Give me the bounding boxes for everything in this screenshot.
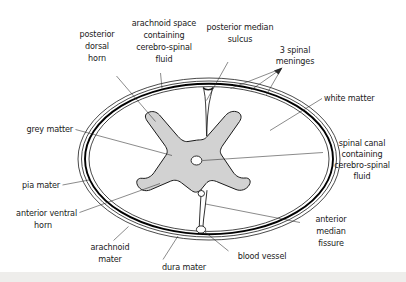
label-blood-vessel: blood vessel xyxy=(238,251,287,261)
label-posterior-dorsal-horn: posterior dorsal horn xyxy=(80,29,116,63)
label-anterior-ventral-horn-line-1: anterior ventral xyxy=(16,208,77,218)
label-dura-mater: dura mater xyxy=(162,262,207,272)
label-anterior-median-fissure-line-1: anterior xyxy=(316,214,348,224)
label-spinal-canal-line-2: containing xyxy=(341,149,382,159)
leader-arachnoid-mater xyxy=(114,227,129,241)
page-edge-band xyxy=(0,272,406,282)
leader-arachnoid-space xyxy=(161,73,163,89)
leader-anterior-median-fissure xyxy=(206,204,301,223)
label-arachnoid-mater-line-2: mater xyxy=(98,254,122,264)
posterior-median-sulcus xyxy=(203,88,213,137)
label-posterior-median-sulcus: posterior median sulcus xyxy=(207,22,274,44)
label-anterior-median-fissure: anterior median fissure xyxy=(316,214,348,248)
label-white-matter: white matter xyxy=(324,93,375,103)
label-arachnoid-space-line-4: fluid xyxy=(156,54,173,64)
leader-dura-mater xyxy=(163,236,178,260)
label-arachnoid-mater-line-1: arachnoid xyxy=(91,242,130,252)
label-pia-mater: pia mater xyxy=(22,180,61,190)
label-posterior-dorsal-horn-line-3: horn xyxy=(88,53,106,63)
label-three-spinal-meninges-line-1: 3 spinal xyxy=(280,45,310,55)
spinal-canal-opening xyxy=(191,156,202,165)
label-anterior-median-fissure-line-2: median xyxy=(316,226,345,236)
label-arachnoid-space-line-1: arachnoid space xyxy=(132,18,197,28)
fissure-vessel-node xyxy=(198,191,204,197)
leader-anterior-ventral-horn xyxy=(80,184,161,213)
label-anterior-ventral-horn: anterior ventral horn xyxy=(16,208,77,230)
label-spinal-canal-line-4: fluid xyxy=(354,171,371,181)
leader-meninges-1 xyxy=(231,69,282,89)
leader-posterior-dorsal-horn xyxy=(117,76,156,122)
label-three-spinal-meninges-line-2: meninges xyxy=(276,56,315,66)
label-anterior-ventral-horn-line-2: horn xyxy=(34,220,52,230)
diagram-canvas: posterior dorsal horn arachnoid space co… xyxy=(0,0,406,282)
label-spinal-canal-line-3: cerebro-spinal xyxy=(334,160,390,170)
leader-meninges-arrowhead xyxy=(274,68,283,75)
blood-vessel xyxy=(196,226,205,233)
label-posterior-median-sulcus-line-1: posterior median xyxy=(207,22,274,32)
leader-pia-mater xyxy=(63,180,90,185)
label-posterior-median-sulcus-line-2: sulcus xyxy=(228,34,253,44)
label-three-spinal-meninges: 3 spinal meninges xyxy=(276,45,315,66)
label-posterior-dorsal-horn-line-1: posterior xyxy=(80,29,116,39)
anterior-median-fissure xyxy=(196,190,207,234)
label-arachnoid-space-line-3: cerebro-spinal xyxy=(136,42,192,52)
label-spinal-canal: spinal canal containing cerebro-spinal f… xyxy=(334,138,390,181)
label-spinal-canal-line-1: spinal canal xyxy=(339,138,385,148)
label-grey-matter: grey matter xyxy=(27,124,74,134)
label-arachnoid-space: arachnoid space containing cerebro-spina… xyxy=(132,18,197,64)
label-posterior-dorsal-horn-line-2: dorsal xyxy=(85,41,109,51)
label-anterior-median-fissure-line-3: fissure xyxy=(318,238,344,248)
grey-matter-shape xyxy=(137,111,250,192)
spinal-cord-diagram: posterior dorsal horn arachnoid space co… xyxy=(0,0,406,282)
label-arachnoid-mater: arachnoid mater xyxy=(91,242,130,264)
label-arachnoid-space-line-2: containing xyxy=(143,30,184,40)
